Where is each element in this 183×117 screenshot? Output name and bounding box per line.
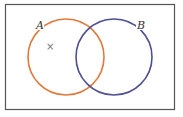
venn-diagram: A B × [0,0,183,117]
set-b-label: B [136,19,145,32]
set-a-label: A [35,19,44,32]
element-marker: × [46,41,54,52]
universal-set-frame [6,5,175,110]
